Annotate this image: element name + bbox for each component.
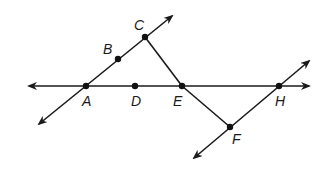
point-A xyxy=(83,83,89,89)
segment-CE xyxy=(145,37,182,86)
line-ABC xyxy=(39,16,172,124)
line-FH xyxy=(194,61,309,158)
segment-EF xyxy=(182,86,230,127)
label-B: B xyxy=(103,41,112,57)
label-H: H xyxy=(275,93,286,109)
point-E xyxy=(179,83,185,89)
point-H xyxy=(276,83,282,89)
label-D: D xyxy=(131,93,141,109)
label-F: F xyxy=(232,131,242,147)
point-B xyxy=(115,56,121,62)
label-E: E xyxy=(173,93,183,109)
label-C: C xyxy=(134,17,145,33)
geometry-diagram: A B C D E F H xyxy=(0,0,327,171)
label-A: A xyxy=(81,93,91,109)
point-F xyxy=(227,124,233,130)
point-C xyxy=(142,34,148,40)
point-D xyxy=(132,83,138,89)
